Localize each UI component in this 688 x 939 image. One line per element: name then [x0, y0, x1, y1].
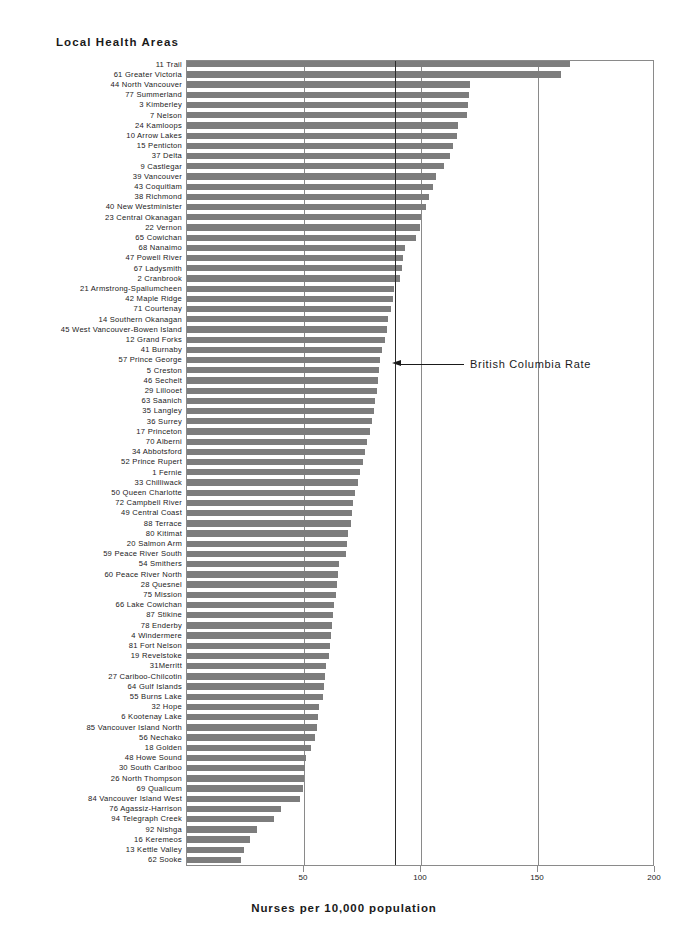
table-row: 77 Summerland — [0, 91, 688, 101]
table-row: 49 Central Coast — [0, 509, 688, 519]
row-label: 9 Castlegar — [140, 162, 182, 171]
table-row: 68 Nanaimo — [0, 244, 688, 254]
row-label: 10 Arrow Lakes — [126, 131, 182, 140]
bar — [187, 81, 470, 87]
table-row: 50 Queen Charlotte — [0, 489, 688, 499]
table-row: 76 Agassiz-Harrison — [0, 805, 688, 815]
chart-category-axis-title: Local Health Areas — [56, 36, 179, 48]
bar — [187, 439, 367, 445]
table-row: 92 Nishga — [0, 825, 688, 835]
row-label: 33 Chilliwack — [134, 478, 182, 487]
row-label: 15 Penticton — [137, 141, 182, 150]
table-row: 75 Mission — [0, 591, 688, 601]
row-label: 38 Richmond — [135, 192, 183, 201]
row-label: 45 West Vancouver-Bowen Island — [61, 325, 182, 334]
bar — [187, 622, 332, 628]
bar — [187, 71, 561, 77]
bar — [187, 479, 358, 485]
x-axis: 50100150200 — [186, 866, 654, 892]
table-row: 22 Vernon — [0, 223, 688, 233]
row-label: 44 North Vancouver — [111, 80, 182, 89]
row-label: 59 Peace River South — [103, 549, 182, 558]
row-label: 39 Vancouver — [133, 172, 182, 181]
bar — [187, 194, 429, 200]
bar — [187, 204, 426, 210]
bar — [187, 765, 305, 771]
table-row: 13 Kettle Valley — [0, 846, 688, 856]
table-row: 26 North Thompson — [0, 774, 688, 784]
row-label: 17 Princeton — [136, 427, 182, 436]
row-label: 56 Nechako — [139, 733, 182, 742]
table-row: 37 Delta — [0, 152, 688, 162]
table-row: 81 Fort Nelson — [0, 642, 688, 652]
table-row: 9 Castlegar — [0, 162, 688, 172]
bar — [187, 428, 370, 434]
table-row: 94 Telegraph Creek — [0, 815, 688, 825]
bar — [187, 847, 244, 853]
bar — [187, 632, 331, 638]
bar — [187, 663, 326, 669]
bar — [187, 388, 377, 394]
table-row: 27 Cariboo-Chilcotin — [0, 672, 688, 682]
table-row: 72 Campbell River — [0, 499, 688, 509]
bar — [187, 643, 330, 649]
table-row: 3 Kimberley — [0, 101, 688, 111]
row-label: 29 Lillooet — [145, 386, 182, 395]
bar — [187, 490, 355, 496]
table-row: 1 Fernie — [0, 468, 688, 478]
row-label: 42 Maple Ridge — [125, 294, 182, 303]
table-row: 24 Kamloops — [0, 121, 688, 131]
bar — [187, 755, 306, 761]
row-label: 16 Keremeos — [134, 835, 182, 844]
table-row: 63 Saanich — [0, 397, 688, 407]
table-row: 48 Howe Sound — [0, 754, 688, 764]
bar — [187, 173, 436, 179]
row-label: 30 South Cariboo — [119, 763, 182, 772]
lha-nurses-bar-chart: Local Health Areas 11 Trail61 Greater Vi… — [0, 0, 688, 939]
bar — [187, 459, 363, 465]
bar — [187, 357, 380, 363]
table-row: 40 New Westminister — [0, 203, 688, 213]
bar — [187, 61, 570, 67]
bar — [187, 653, 329, 659]
bar — [187, 510, 352, 516]
row-label: 92 Nishga — [146, 825, 182, 834]
row-label: 65 Cowichan — [135, 233, 182, 242]
bar — [187, 530, 348, 536]
table-row: 46 Sechelt — [0, 376, 688, 386]
annotation-label: British Columbia Rate — [470, 358, 591, 370]
row-label: 94 Telegraph Creek — [111, 814, 182, 823]
bar — [187, 418, 372, 424]
british-columbia-rate-annotation: British Columbia Rate — [392, 357, 591, 371]
x-tick-label: 50 — [299, 873, 308, 882]
table-row: 87 Stikine — [0, 611, 688, 621]
row-label: 50 Queen Charlotte — [111, 488, 182, 497]
table-row: 88 Terrace — [0, 519, 688, 529]
row-label: 76 Agassiz-Harrison — [109, 804, 182, 813]
x-tick-mark-150 — [537, 866, 538, 872]
bar — [187, 581, 337, 587]
table-row: 43 Coquitlam — [0, 182, 688, 192]
table-row: 42 Maple Ridge — [0, 295, 688, 305]
table-row: 14 Southern Okanagan — [0, 315, 688, 325]
table-row: 69 Qualicum — [0, 784, 688, 794]
table-row: 65 Cowichan — [0, 233, 688, 243]
table-row: 61 Greater Victoria — [0, 70, 688, 80]
bar — [187, 561, 339, 567]
row-label: 7 Nelson — [150, 111, 182, 120]
row-label: 24 Kamloops — [135, 121, 182, 130]
bar — [187, 602, 334, 608]
row-label: 62 Sooke — [148, 855, 182, 864]
row-label: 35 Langley — [142, 406, 182, 415]
row-label: 40 New Westminister — [106, 202, 182, 211]
bar — [187, 367, 379, 373]
x-tick-label: 200 — [647, 873, 660, 882]
row-label: 13 Kettle Valley — [126, 845, 182, 854]
table-row: 21 Armstrong-Spallumcheen — [0, 284, 688, 294]
bar — [187, 133, 457, 139]
bar — [187, 704, 319, 710]
table-row: 54 Smithers — [0, 560, 688, 570]
bar — [187, 551, 346, 557]
bar — [187, 683, 324, 689]
table-row: 4 Windermere — [0, 631, 688, 641]
